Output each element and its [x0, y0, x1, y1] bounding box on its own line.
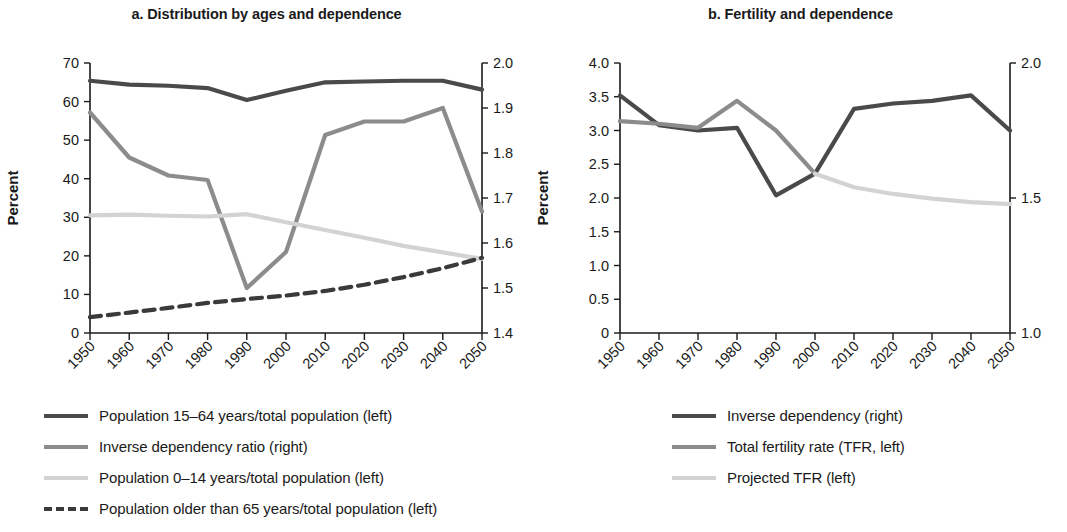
y-tick-label: 0.5: [589, 291, 609, 307]
x-tick-label: 1950: [594, 338, 628, 370]
legend-label: Inverse dependency (right): [727, 407, 903, 424]
panel-a-legend: Population 15–64 years/total population …: [0, 400, 533, 524]
legend-swatch-icon: [672, 440, 716, 454]
y2-tick-label: 1.8: [493, 145, 513, 161]
legend-item[interactable]: Population older than 65 years/total pop…: [0, 493, 533, 524]
y-tick-label: 20: [63, 248, 79, 264]
y-tick-label: 1.5: [589, 224, 609, 240]
legend-label: Projected TFR (left): [727, 469, 856, 486]
x-tick-label: 1980: [182, 338, 216, 370]
legend-swatch-icon: [44, 471, 88, 485]
y2-tick-label: 1.7: [493, 190, 513, 206]
x-tick-label: 2030: [378, 338, 412, 370]
y2-tick-label: 1.0: [1021, 325, 1041, 341]
legend-swatch-icon: [44, 409, 88, 423]
y-tick-label: 60: [63, 94, 79, 110]
legend-swatch-icon: [44, 440, 88, 454]
y-tick-label: 0: [71, 325, 79, 341]
y-tick-label: 2.5: [589, 156, 609, 172]
legend-item[interactable]: Total fertility rate (TFR, left): [534, 431, 1067, 462]
y-tick-label: 70: [63, 55, 79, 71]
series-line: [90, 258, 482, 317]
legend-item[interactable]: Inverse dependency ratio (right): [0, 431, 533, 462]
y-axis-label: Percent: [534, 170, 551, 225]
series-line: [620, 101, 815, 174]
y-tick-label: 40: [63, 171, 79, 187]
x-tick-label: 2050: [456, 338, 490, 370]
panel-b-title: b. Fertility and dependence: [534, 6, 1067, 22]
legend-label: Population 15–64 years/total population …: [99, 407, 392, 424]
y2-tick-label: 2.0: [1021, 55, 1041, 71]
y-tick-label: 3.0: [589, 123, 609, 139]
legend-swatch-icon: [44, 502, 88, 516]
y2-tick-label: 1.9: [493, 100, 513, 116]
panel-a-svg: 0102030405060701.41.51.61.71.81.92.01950…: [0, 40, 533, 370]
legend-item[interactable]: Inverse dependency (right): [534, 400, 1067, 431]
panel-a-title: a. Distribution by ages and dependence: [0, 6, 533, 22]
legend-label: Total fertility rate (TFR, left): [727, 438, 905, 455]
x-tick-label: 1990: [221, 338, 255, 370]
series-line: [620, 95, 1010, 195]
x-tick-label: 1960: [633, 338, 667, 370]
panel-b-svg: 00.51.01.52.02.53.03.54.01.01.52.0195019…: [534, 40, 1067, 370]
legend-label: Inverse dependency ratio (right): [99, 438, 308, 455]
legend-swatch-icon: [672, 409, 716, 423]
x-tick-label: 2000: [789, 338, 823, 370]
panel-a-plot: 0102030405060701.41.51.61.71.81.92.01950…: [0, 40, 533, 360]
legend-item[interactable]: Projected TFR (left): [534, 462, 1067, 493]
x-tick-label: 1970: [672, 338, 706, 370]
series-line: [90, 81, 482, 100]
x-tick-label: 2020: [338, 338, 372, 370]
x-tick-label: 2010: [299, 338, 333, 370]
y-tick-label: 2.0: [589, 190, 609, 206]
x-tick-label: 1980: [711, 338, 745, 370]
x-tick-label: 2030: [906, 338, 940, 370]
y2-tick-label: 1.4: [493, 325, 513, 341]
y-tick-label: 0: [601, 325, 609, 341]
y2-tick-label: 1.5: [493, 280, 513, 296]
x-tick-label: 1970: [142, 338, 176, 370]
x-tick-label: 2050: [984, 338, 1018, 370]
series-line: [815, 174, 1010, 204]
y2-tick-label: 1.6: [493, 235, 513, 251]
y-tick-label: 10: [63, 286, 79, 302]
y-tick-label: 4.0: [589, 55, 609, 71]
x-tick-label: 1950: [64, 338, 98, 370]
figure-population-fertility: a. Distribution by ages and dependence 0…: [0, 0, 1067, 532]
x-tick-label: 1960: [103, 338, 137, 370]
legend-swatch-icon: [672, 471, 716, 485]
x-tick-label: 2020: [867, 338, 901, 370]
x-tick-label: 2010: [828, 338, 862, 370]
y2-tick-label: 1.5: [1021, 190, 1041, 206]
y-axis-label: Percent: [4, 170, 21, 225]
legend-label: Population 0–14 years/total population (…: [99, 469, 384, 486]
panel-b-legend: Inverse dependency (right)Total fertilit…: [534, 400, 1067, 493]
y-tick-label: 50: [63, 132, 79, 148]
x-tick-label: 2040: [945, 338, 979, 370]
series-line: [90, 108, 482, 288]
panel-b: b. Fertility and dependence 00.51.01.52.…: [534, 0, 1067, 532]
x-tick-label: 1990: [750, 338, 784, 370]
y-tick-label: 1.0: [589, 258, 609, 274]
panel-b-plot: 00.51.01.52.02.53.03.54.01.01.52.0195019…: [534, 40, 1067, 360]
x-tick-label: 2040: [417, 338, 451, 370]
y-tick-label: 3.5: [589, 89, 609, 105]
panel-a: a. Distribution by ages and dependence 0…: [0, 0, 533, 532]
legend-item[interactable]: Population 15–64 years/total population …: [0, 400, 533, 431]
legend-item[interactable]: Population 0–14 years/total population (…: [0, 462, 533, 493]
x-tick-label: 2000: [260, 338, 294, 370]
legend-label: Population older than 65 years/total pop…: [99, 500, 437, 517]
y-tick-label: 30: [63, 209, 79, 225]
y2-tick-label: 2.0: [493, 55, 513, 71]
